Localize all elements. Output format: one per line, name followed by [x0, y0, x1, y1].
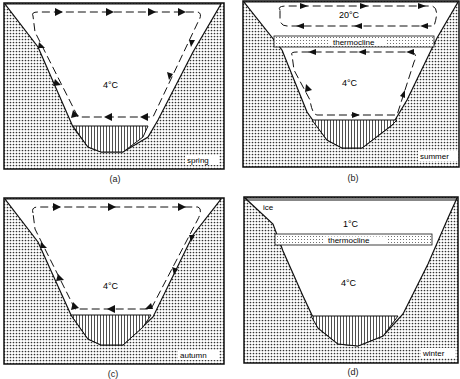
season-label: winter — [422, 349, 445, 358]
panel-summer: thermocline 20°C 4°C summer — [242, 0, 460, 168]
temp-label-bottom: 4°C — [341, 278, 357, 288]
caption-d: (d) — [333, 367, 373, 377]
panel-autumn: 4°C autumn — [3, 197, 225, 365]
panel-spring: 4°C spring — [3, 2, 225, 170]
season-label: spring — [187, 156, 209, 165]
temp-label-top: 1°C — [343, 219, 359, 229]
temp-label: 4°C — [103, 281, 119, 291]
panel-winter: thermocline ice 1°C 4°C winter — [243, 196, 460, 366]
season-label: autumn — [180, 351, 207, 360]
season-label: summer — [420, 152, 449, 161]
layer-label: thermocline — [328, 236, 370, 245]
caption-b: (b) — [333, 173, 373, 183]
caption-c: (c) — [93, 369, 133, 379]
layer-label: thermocline — [333, 38, 375, 47]
temp-label-top: 20°C — [339, 10, 360, 20]
temp-label: 4°C — [103, 80, 119, 90]
temp-label-bottom: 4°C — [342, 78, 358, 88]
caption-a: (a) — [95, 174, 135, 184]
surface-label: ice — [263, 203, 274, 212]
